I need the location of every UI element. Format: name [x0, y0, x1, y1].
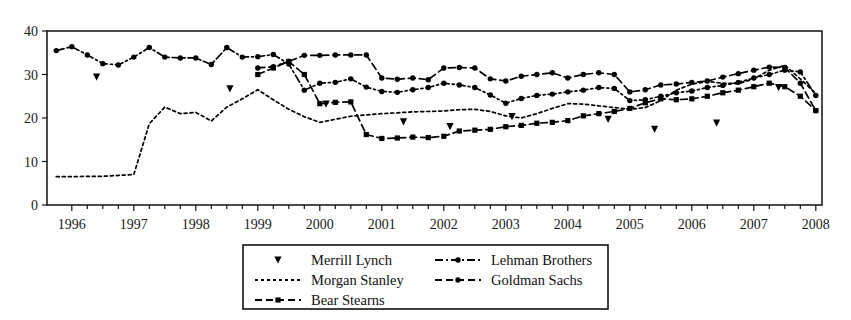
- series-marker-merrill-lynch: [93, 74, 100, 81]
- series-marker-lehman-brothers: [116, 62, 121, 67]
- series-marker-lehman-brothers: [69, 44, 74, 49]
- series-marker-bear-stearns: [488, 127, 493, 132]
- series-marker-bear-stearns: [627, 106, 632, 111]
- series-marker-bear-stearns: [457, 128, 462, 133]
- series-marker-lehman-brothers: [596, 85, 601, 90]
- series-marker-goldman-sachs: [348, 52, 353, 57]
- series-marker-goldman-sachs: [782, 65, 787, 70]
- series-marker-goldman-sachs: [689, 80, 694, 85]
- series-marker-bear-stearns: [519, 123, 524, 128]
- series-marker-lehman-brothers: [302, 87, 307, 92]
- series-marker-goldman-sachs: [255, 65, 260, 70]
- legend-label-goldman-sachs: Goldman Sachs: [491, 272, 583, 288]
- series-marker-goldman-sachs: [705, 78, 710, 83]
- series-marker-goldman-sachs: [364, 52, 369, 57]
- legend-sample-marker-lehman-brothers: [455, 257, 460, 262]
- series-marker-goldman-sachs: [302, 53, 307, 58]
- x-tick-label: 2000: [306, 217, 334, 232]
- series-marker-merrill-lynch: [446, 123, 453, 130]
- series-marker-merrill-lynch: [713, 120, 720, 127]
- series-marker-goldman-sachs: [534, 72, 539, 77]
- series-marker-bear-stearns: [317, 101, 322, 106]
- x-tick-label: 2003: [492, 217, 520, 232]
- series-marker-bear-stearns: [767, 81, 772, 86]
- x-tick-label: 2006: [678, 217, 706, 232]
- series-marker-merrill-lynch: [226, 85, 233, 92]
- legend-sample-marker-merrill-lynch: [274, 256, 281, 263]
- series-marker-lehman-brothers: [100, 61, 105, 66]
- series-marker-lehman-brothers: [472, 85, 477, 90]
- series-marker-lehman-brothers: [178, 55, 183, 60]
- y-tick-label: 10: [24, 155, 38, 170]
- series-marker-goldman-sachs: [271, 64, 276, 69]
- series-marker-goldman-sachs: [581, 72, 586, 77]
- series-marker-lehman-brothers: [441, 81, 446, 86]
- series-marker-goldman-sachs: [410, 75, 415, 80]
- series-marker-bear-stearns: [364, 132, 369, 137]
- series-marker-lehman-brothers: [457, 82, 462, 87]
- series-marker-lehman-brothers: [736, 80, 741, 85]
- series-marker-goldman-sachs: [379, 75, 384, 80]
- series-marker-lehman-brothers: [550, 91, 555, 96]
- legend-label-bear-stearns: Bear Stearns: [311, 292, 385, 308]
- series-marker-lehman-brothers: [705, 85, 710, 90]
- series-marker-merrill-lynch: [605, 116, 612, 123]
- series-marker-lehman-brothers: [364, 84, 369, 89]
- y-tick-label: 30: [24, 68, 38, 83]
- series-marker-bear-stearns: [472, 128, 477, 133]
- series-marker-goldman-sachs: [503, 78, 508, 83]
- series-marker-goldman-sachs: [596, 70, 601, 75]
- series-marker-bear-stearns: [705, 94, 710, 99]
- series-marker-lehman-brothers: [395, 90, 400, 95]
- series-marker-bear-stearns: [302, 72, 307, 77]
- series-marker-lehman-brothers: [333, 80, 338, 85]
- series-marker-lehman-brothers: [798, 69, 803, 74]
- series-marker-goldman-sachs: [457, 65, 462, 70]
- series-marker-bear-stearns: [782, 84, 787, 89]
- series-marker-lehman-brothers: [271, 52, 276, 57]
- series-marker-lehman-brothers: [410, 87, 415, 92]
- series-marker-lehman-brothers: [379, 89, 384, 94]
- series-marker-bear-stearns: [255, 72, 260, 77]
- series-marker-lehman-brothers: [674, 90, 679, 95]
- series-marker-lehman-brothers: [348, 76, 353, 81]
- legend-sample-marker-bear-stearns: [275, 297, 280, 302]
- y-tick-label: 0: [31, 198, 38, 213]
- series-marker-lehman-brothers: [627, 98, 632, 103]
- chart-figure: 0102030401996199719981999200020012002200…: [0, 0, 851, 320]
- series-marker-goldman-sachs: [488, 76, 493, 81]
- series-marker-goldman-sachs: [674, 81, 679, 86]
- series-marker-lehman-brothers: [147, 45, 152, 50]
- series-marker-lehman-brothers: [255, 54, 260, 59]
- series-marker-lehman-brothers: [162, 54, 167, 59]
- series-marker-lehman-brothers: [240, 54, 245, 59]
- series-marker-bear-stearns: [348, 99, 353, 104]
- legend-sample-marker-goldman-sachs: [455, 277, 460, 282]
- series-marker-goldman-sachs: [813, 108, 818, 113]
- chart-canvas: 0102030401996199719981999200020012002200…: [0, 0, 851, 320]
- series-marker-merrill-lynch: [651, 126, 658, 133]
- series-marker-bear-stearns: [550, 120, 555, 125]
- x-tick-label: 1996: [58, 217, 86, 232]
- x-tick-label: 1998: [182, 217, 210, 232]
- series-marker-goldman-sachs: [426, 77, 431, 82]
- series-marker-lehman-brothers: [224, 45, 229, 50]
- series-marker-bear-stearns: [751, 84, 756, 89]
- series-marker-lehman-brothers: [503, 101, 508, 106]
- series-marker-bear-stearns: [674, 97, 679, 102]
- series-marker-goldman-sachs: [441, 65, 446, 70]
- series-marker-bear-stearns: [798, 94, 803, 99]
- series-marker-goldman-sachs: [317, 53, 322, 58]
- x-tick-label: 2005: [616, 217, 644, 232]
- series-marker-lehman-brothers: [751, 75, 756, 80]
- series-marker-bear-stearns: [333, 100, 338, 105]
- series-marker-lehman-brothers: [658, 94, 663, 99]
- x-tick-label: 2002: [430, 217, 458, 232]
- y-tick-label: 20: [24, 111, 38, 126]
- series-marker-goldman-sachs: [565, 75, 570, 80]
- legend-label-morgan-stanley: Morgan Stanley: [311, 272, 405, 288]
- series-marker-lehman-brothers: [193, 55, 198, 60]
- series-marker-lehman-brothers: [813, 93, 818, 98]
- series-marker-goldman-sachs: [333, 52, 338, 57]
- series-marker-goldman-sachs: [736, 71, 741, 76]
